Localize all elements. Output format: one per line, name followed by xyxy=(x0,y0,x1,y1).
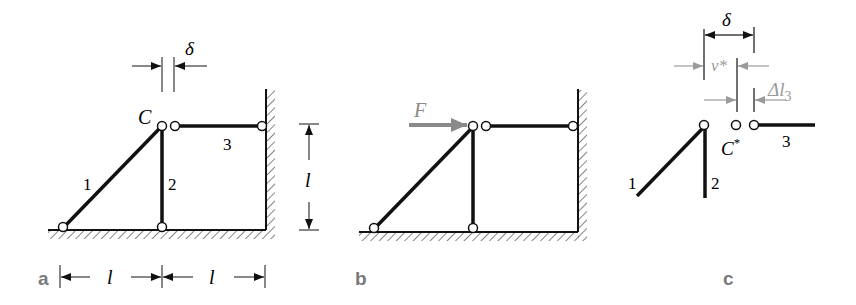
panel-c: δ v* Δl3 C* 1 2 3 c xyxy=(628,9,815,289)
panel-label-a: a xyxy=(38,268,49,289)
force-arrow: F xyxy=(409,99,467,125)
panel-label-b: b xyxy=(355,268,367,289)
pin-joint xyxy=(158,223,167,232)
width-dimension: l l xyxy=(60,265,265,288)
bar-label-2: 2 xyxy=(711,174,720,193)
gap-label: δ xyxy=(722,9,732,30)
bar-1 xyxy=(375,128,472,228)
panel-label-c: c xyxy=(723,268,734,289)
bar-label-1: 1 xyxy=(83,175,92,194)
displacement-label: v* xyxy=(711,56,728,75)
panel-b: F b xyxy=(355,89,587,289)
bar-label-1: 1 xyxy=(628,174,637,193)
pin-joint xyxy=(569,122,578,131)
pin-joint xyxy=(469,224,478,233)
pin-joint xyxy=(370,224,379,233)
node-label-c: C xyxy=(138,106,152,128)
panel-a: C 1 2 3 δ l l l xyxy=(38,38,319,289)
gap-label: δ xyxy=(185,38,195,59)
pin-joint xyxy=(171,122,180,131)
wall-support xyxy=(266,89,275,239)
truss-figure: C 1 2 3 δ l l l xyxy=(0,0,856,305)
pin-joint xyxy=(750,121,759,130)
pin-joint xyxy=(258,122,267,131)
pin-joint-c xyxy=(158,122,167,131)
node-label-c-star: C* xyxy=(721,135,740,159)
width-label-left: l xyxy=(107,266,113,288)
bar-1 xyxy=(637,128,703,196)
height-label: l xyxy=(305,169,311,191)
height-dimension: l xyxy=(299,124,319,230)
width-label-right: l xyxy=(209,266,215,288)
gap-dimension: δ xyxy=(132,38,207,92)
wall-support xyxy=(578,89,587,241)
bar-label-3: 3 xyxy=(782,132,791,151)
bar-1 xyxy=(64,127,161,227)
pin-joint xyxy=(700,121,709,130)
ground-support xyxy=(48,230,266,239)
pin-joint xyxy=(59,223,68,232)
bar-label-3: 3 xyxy=(223,135,232,154)
bar-label-2: 2 xyxy=(168,175,177,194)
elongation-dimension: Δl3 xyxy=(704,79,791,112)
force-label: F xyxy=(413,99,427,121)
pin-joint xyxy=(482,122,491,131)
ground-support xyxy=(359,232,579,241)
pin-joint-c xyxy=(469,122,478,131)
displacement-dimension: v* xyxy=(674,56,769,112)
pin-joint-c-star xyxy=(732,121,741,130)
